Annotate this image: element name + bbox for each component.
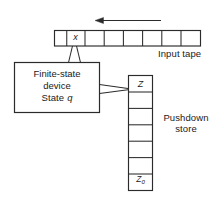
pushdown-store-label-line-2: store — [157, 123, 215, 134]
finite-state-device-text: Finite-state device Stateq — [14, 68, 100, 104]
pushdown-bottom-symbol-subscript: 0 — [141, 178, 144, 185]
pushdown-automaton-figure: Input tape x Finite-state device Stateq … — [0, 0, 220, 205]
fsd-state-symbol: q — [64, 92, 72, 103]
read-head-wedge — [69, 46, 81, 63]
pushdown-bottom-symbol: Z0 — [129, 175, 152, 185]
fsd-line-1: Finite-state — [14, 68, 100, 80]
pushdown-store-label-line-1: Pushdown — [157, 112, 215, 123]
fsd-state-line: Stateq — [14, 92, 100, 104]
input-tape-label: Input tape — [158, 48, 201, 59]
pushdown-top-symbol: Z — [129, 80, 152, 89]
input-tape-current-symbol: x — [68, 33, 83, 42]
tape-motion-arrow — [95, 17, 161, 23]
stack-link-wedge — [100, 85, 129, 94]
pushdown-store-label: Pushdown store — [157, 112, 215, 134]
fsd-state-word: State — [41, 92, 64, 103]
fsd-line-2: device — [14, 80, 100, 92]
